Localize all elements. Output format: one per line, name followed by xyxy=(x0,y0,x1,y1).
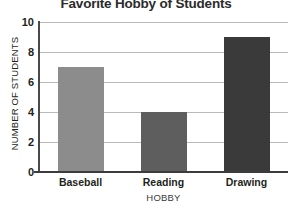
bar xyxy=(141,112,187,172)
y-tick-label: 8 xyxy=(2,47,34,58)
x-axis-title: HOBBY xyxy=(39,192,288,203)
x-axis-line xyxy=(34,171,288,173)
y-tick-label: 4 xyxy=(2,107,34,118)
gridline xyxy=(39,22,288,23)
bar xyxy=(224,37,270,172)
y-axis-line xyxy=(38,21,40,173)
bar-chart: Favorite Hobby of Students NUMBER OF STU… xyxy=(0,0,292,211)
bar xyxy=(58,67,104,172)
y-tick-label: 2 xyxy=(2,137,34,148)
y-tick-label: 0 xyxy=(2,167,34,178)
plot-area xyxy=(39,22,288,172)
chart-title: Favorite Hobby of Students xyxy=(0,0,292,11)
x-tick-label: Drawing xyxy=(197,176,293,188)
y-tick-label: 6 xyxy=(2,77,34,88)
y-axis-tick-labels: 0246810 xyxy=(0,0,34,211)
y-tick-label: 10 xyxy=(2,17,34,28)
